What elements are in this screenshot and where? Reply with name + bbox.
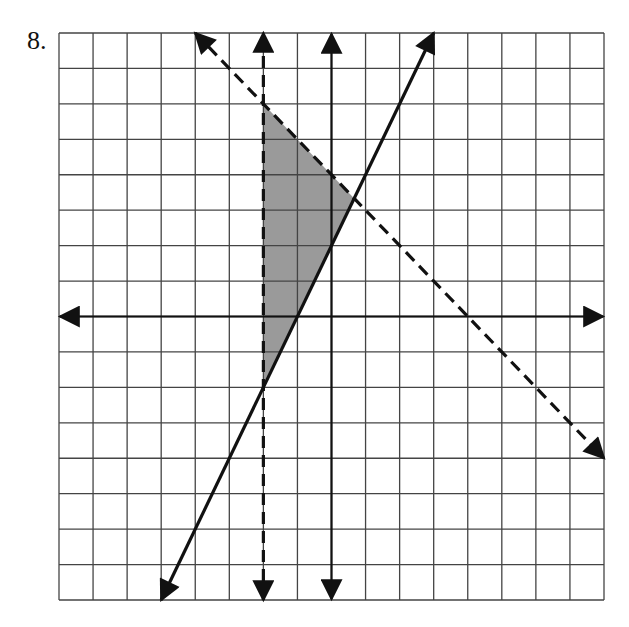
coordinate-graph [0,0,629,627]
axes [60,34,603,599]
